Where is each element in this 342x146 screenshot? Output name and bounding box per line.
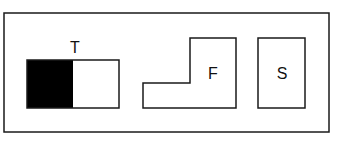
shape-s: S: [258, 38, 305, 108]
diagram-canvas: T F S: [0, 0, 342, 146]
shape-f: F: [143, 38, 236, 108]
shape-t: T: [27, 39, 119, 108]
shape-s-label: S: [277, 65, 288, 82]
shape-f-label: F: [208, 65, 218, 82]
shape-f-outline: [143, 38, 236, 108]
shape-t-filled-half: [27, 60, 73, 108]
shape-t-label: T: [70, 39, 80, 56]
